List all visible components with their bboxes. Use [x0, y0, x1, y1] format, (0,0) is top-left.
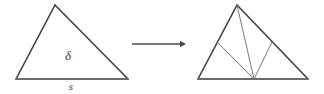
- triangle-subdivision-diagram: δ s: [0, 0, 324, 94]
- side-length-label-s: s: [69, 80, 73, 92]
- source-triangle-right-edge: [55, 5, 128, 79]
- internal-segment-right-midpoint-to-base-point: [254, 42, 272, 79]
- transformation-arrow-group: [132, 41, 186, 48]
- internal-segment-left-midpoint-to-base-point: [217, 42, 254, 79]
- delta-label: δ: [65, 48, 72, 63]
- internal-segment-apex-to-base-point: [237, 5, 254, 79]
- arrow-head-icon: [180, 41, 186, 48]
- subdivided-triangle-group: [198, 5, 308, 79]
- source-triangle-left-edge: [16, 5, 55, 79]
- source-triangle-group: δ s: [16, 5, 128, 92]
